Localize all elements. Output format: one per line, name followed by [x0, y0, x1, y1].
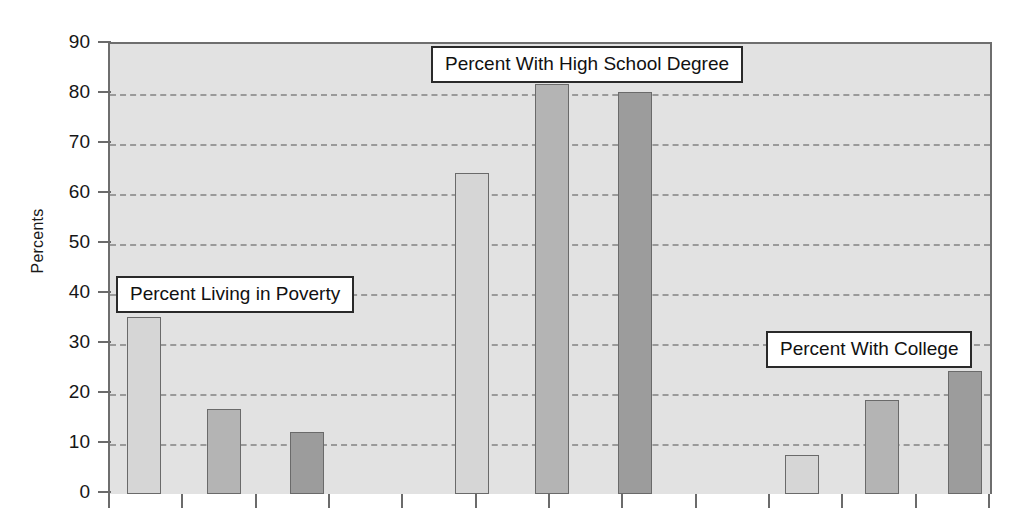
x-tick-mark [255, 494, 257, 508]
x-tick-mark [841, 494, 843, 508]
y-tick-label: 10 [46, 432, 90, 451]
x-tick-mark [768, 494, 770, 508]
y-tick-label: 70 [46, 132, 90, 151]
bar [127, 317, 161, 495]
y-tick-mark [98, 91, 111, 93]
x-tick-mark [108, 494, 110, 508]
y-tick-mark [98, 191, 111, 193]
y-tick-label: 50 [46, 232, 90, 251]
x-tick-mark [621, 494, 623, 508]
bar-chart: Percents 0102030405060708090 Percent Liv… [0, 0, 1021, 524]
x-tick-mark [475, 494, 477, 508]
y-axis-tick-labels: 0102030405060708090 [46, 0, 90, 524]
y-tick-label: 40 [46, 282, 90, 301]
callout-percent-living-in-poverty: Percent Living in Poverty [116, 276, 354, 313]
x-tick-mark [328, 494, 330, 508]
bar [948, 371, 982, 495]
bar [535, 84, 569, 495]
bar [207, 409, 241, 495]
x-tick-mark [915, 494, 917, 508]
x-tick-mark [181, 494, 183, 508]
callout-percent-with-college: Percent With College [766, 331, 972, 368]
y-tick-mark [98, 141, 111, 143]
bar [785, 455, 819, 494]
y-tick-label: 0 [46, 482, 90, 501]
y-tick-mark [98, 441, 111, 443]
y-tick-label: 20 [46, 382, 90, 401]
bar [618, 92, 652, 495]
y-tick-mark [98, 241, 111, 243]
plot-area [110, 42, 992, 494]
bar [290, 432, 324, 494]
y-tick-mark [98, 491, 111, 493]
y-axis-title: Percents [29, 181, 47, 301]
y-tick-mark [98, 391, 111, 393]
y-tick-mark [98, 291, 111, 293]
x-tick-mark [988, 494, 990, 508]
y-tick-label: 60 [46, 182, 90, 201]
callout-percent-with-high-school-degree: Percent With High School Degree [431, 46, 743, 83]
y-tick-label: 80 [46, 82, 90, 101]
x-tick-mark [548, 494, 550, 508]
x-tick-mark [401, 494, 403, 508]
x-tick-mark [695, 494, 697, 508]
y-tick-mark [98, 41, 111, 43]
bar [455, 173, 489, 494]
y-tick-label: 30 [46, 332, 90, 351]
y-tick-label: 90 [46, 32, 90, 51]
y-tick-mark [98, 341, 111, 343]
bar [865, 400, 899, 494]
